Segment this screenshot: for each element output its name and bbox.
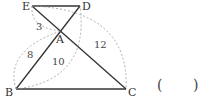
measure-BA: 8 [27,49,33,60]
point-label-E: E [22,0,30,13]
segment-EC [32,6,126,89]
measure-BD: 10 [52,56,65,67]
measure-EC: 12 [94,39,107,50]
measure-EA: 3 [36,21,42,32]
point-label-D: D [82,0,91,13]
point-label-B: B [5,86,13,99]
point-label-A: A [55,33,65,46]
segment-DB [16,6,80,89]
answer-close-paren: ) [193,77,198,93]
answer-open-paren: ( [157,77,162,93]
geometry-figure: E D A B C 3 8 10 12 ( ) [0,0,201,104]
point-label-C: C [128,86,136,99]
